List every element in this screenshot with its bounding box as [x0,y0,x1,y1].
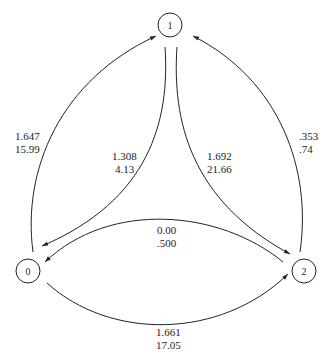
edge-0-to-1-label-line1: 1.647 [15,130,40,142]
edge-1-to-2 [176,47,290,254]
edge-2-to-1-label-line2: .74 [299,143,313,155]
edge-2-to-0-label-line1: 0.00 [157,224,177,236]
node-1-label: 1 [168,20,173,31]
edge-0-to-1 [31,36,156,252]
node-0-label: 0 [26,266,31,277]
edge-0-to-2 [47,274,288,325]
node-1: 1 [158,13,182,37]
edge-1-to-2-label-line1: 1.692 [207,150,232,162]
edge-1-to-2-label-line2: 21.66 [207,163,232,175]
edge-0-to-2-label-line1: 1.661 [156,326,181,338]
edge-1-to-0-label-line2: 4.13 [115,163,135,175]
node-2: 2 [292,259,316,283]
edge-2-to-1-label-line1: .353 [299,130,319,142]
state-diagram: 1 0 2 1.647 15.99 1.308 4.13 1.692 21.66… [0,0,327,362]
edge-1-to-0 [42,47,166,246]
node-2-label: 2 [302,266,307,277]
node-0: 0 [16,259,40,283]
edge-2-to-0-label-line2: .500 [157,237,177,249]
edge-2-to-1 [193,36,302,252]
edge-1-to-0-label-line1: 1.308 [112,150,137,162]
edge-0-to-1-label-line2: 15.99 [15,143,40,155]
edge-0-to-2-label-line2: 17.05 [156,339,181,351]
